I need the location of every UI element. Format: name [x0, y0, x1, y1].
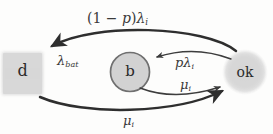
edge-top-prefix: (1 − — [87, 10, 122, 26]
edge-d-to-ok-bottom — [40, 91, 222, 110]
edge-top-subscript: i — [145, 17, 148, 27]
edge-label-ok-to-b: pλi — [175, 56, 194, 71]
edge-bat-rate: λ — [57, 53, 65, 68]
edge-top-variable: p — [122, 10, 131, 26]
edge-bat-subscript: bat — [65, 60, 78, 69]
edge-plambda-subscript: i — [192, 62, 195, 71]
edge-ok-to-d-top — [52, 30, 236, 51]
node-label-b: b — [111, 64, 149, 79]
edge-label-b-to-d: λbat — [57, 54, 78, 69]
node-label-ok: ok — [223, 65, 267, 79]
diagram-canvas: d b ok (1 − p)λi λbat pλi μi μi — [0, 0, 273, 134]
edge-label-ok-to-d: (1 − p)λi — [87, 11, 148, 27]
edge-mu-bottom-subscript: i — [131, 120, 134, 129]
edge-mu-mid-subscript: i — [188, 84, 191, 93]
edge-label-b-to-ok: μi — [180, 78, 191, 93]
edge-label-d-to-ok: μi — [123, 114, 134, 129]
edge-top-rate: λ — [136, 10, 145, 26]
edge-plambda-rate: λ — [183, 55, 191, 70]
node-label-d: d — [2, 63, 43, 79]
